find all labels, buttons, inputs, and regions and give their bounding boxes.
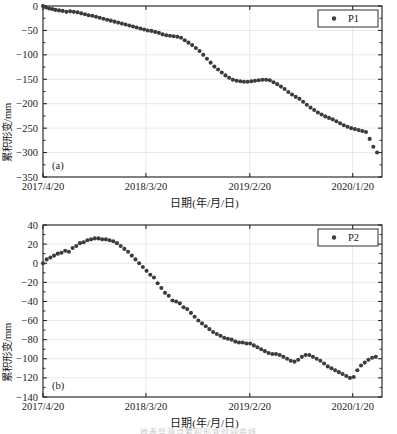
data-point	[72, 10, 76, 14]
data-point	[311, 355, 315, 359]
data-point	[112, 20, 116, 24]
data-point	[179, 36, 183, 40]
data-point	[133, 257, 137, 261]
data-point	[127, 23, 131, 27]
data-point	[135, 25, 139, 29]
data-point	[138, 26, 142, 30]
data-point	[320, 112, 324, 116]
data-point	[227, 76, 231, 80]
data-point	[163, 291, 167, 295]
y-tick-label: −20	[22, 277, 38, 288]
y-axis-title-b: 累积形变/mm	[0, 323, 14, 382]
x-tick-label: 2019/2/20	[228, 181, 271, 192]
data-point	[281, 355, 285, 359]
data-point	[90, 14, 94, 18]
data-point	[305, 103, 309, 107]
data-point	[98, 16, 102, 20]
data-point	[286, 90, 290, 94]
data-point	[345, 125, 349, 129]
data-point	[94, 15, 98, 19]
data-point	[209, 61, 213, 65]
data-point	[93, 236, 97, 240]
x-tick-label: 2018/3/20	[125, 181, 168, 192]
data-point	[308, 106, 312, 110]
data-point	[333, 368, 337, 372]
x-axis-title-a: 日期(年/月/日)	[6, 194, 397, 210]
data-point	[296, 358, 300, 362]
y-tick-label: 0	[33, 1, 38, 12]
data-point	[360, 129, 364, 133]
data-point	[338, 121, 342, 125]
data-point	[279, 85, 283, 89]
chart-panel-a: 0−50−100−150−200−250−300−3502017/4/20201…	[0, 0, 397, 214]
data-point	[89, 237, 93, 241]
data-point	[255, 345, 259, 349]
data-point	[101, 17, 105, 21]
data-point	[45, 257, 49, 261]
y-tick-label: −100	[16, 353, 38, 364]
data-point	[322, 362, 326, 366]
data-point	[168, 34, 172, 38]
data-point	[234, 79, 238, 83]
data-point	[96, 236, 100, 240]
data-point	[172, 34, 176, 38]
data-point	[300, 355, 304, 359]
y-tick-label: −120	[16, 372, 38, 383]
y-tick-label: −250	[16, 123, 38, 134]
data-point	[353, 127, 357, 131]
chart-panel-b: 40200−20−40−60−80−100−120−1402017/4/2020…	[0, 214, 397, 434]
scatter-plot-p1: 0−50−100−150−200−250−300−3502017/4/20201…	[0, 0, 397, 214]
x-tick-label: 2020/1/20	[331, 181, 374, 192]
data-point	[108, 238, 112, 242]
data-point	[263, 349, 267, 353]
y-tick-label: 20	[28, 239, 39, 250]
data-point	[186, 41, 190, 45]
data-point	[268, 78, 272, 82]
data-point-group	[41, 236, 378, 380]
data-point	[61, 9, 65, 13]
data-point	[190, 43, 194, 47]
x-tick-label: 2017/4/20	[22, 181, 65, 192]
data-point	[215, 332, 219, 336]
y-tick-label: −80	[22, 334, 38, 345]
plot-frame	[43, 6, 382, 177]
data-point	[207, 327, 211, 331]
data-point	[312, 108, 316, 112]
data-point	[178, 301, 182, 305]
data-point	[259, 347, 263, 351]
data-point	[75, 10, 79, 14]
data-point	[130, 254, 134, 258]
data-point	[142, 27, 146, 31]
data-point	[83, 12, 87, 16]
data-point	[357, 128, 361, 132]
data-point	[326, 364, 330, 368]
data-point	[366, 358, 370, 362]
data-point	[292, 360, 296, 364]
data-point	[85, 238, 89, 242]
y-tick-label: 40	[28, 220, 39, 231]
data-point	[111, 239, 115, 243]
data-point	[193, 315, 197, 319]
data-point	[212, 65, 216, 69]
data-point	[316, 110, 320, 114]
data-point	[159, 286, 163, 290]
data-point	[170, 298, 174, 302]
data-point	[161, 32, 165, 36]
data-point	[120, 22, 124, 26]
panel-tag: (b)	[52, 380, 65, 392]
data-point	[223, 73, 227, 77]
data-point	[249, 79, 253, 83]
data-point	[71, 246, 75, 250]
data-point	[68, 9, 72, 13]
legend-marker-icon	[332, 235, 336, 239]
data-point	[174, 299, 178, 303]
data-point	[315, 357, 319, 361]
data-point	[231, 78, 235, 82]
data-point	[301, 100, 305, 104]
data-point	[241, 340, 245, 344]
x-tick-label: 2017/4/20	[22, 401, 65, 412]
data-point	[364, 130, 368, 134]
data-point	[374, 355, 378, 359]
data-point	[175, 35, 179, 39]
data-point	[307, 353, 311, 357]
